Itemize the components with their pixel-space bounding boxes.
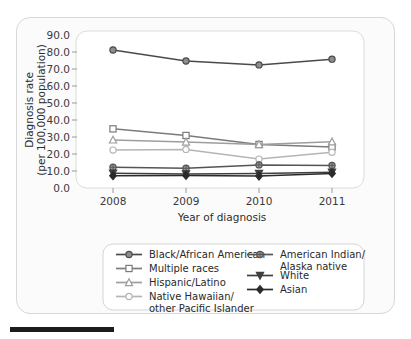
legend-item-label: Asian	[280, 284, 307, 295]
y-tick-10: 10.0	[47, 165, 70, 177]
x-tick-2009: 2009	[173, 195, 200, 207]
legend-item-label: American Indian/	[280, 249, 366, 260]
y-axis-tick-labels: 90.0 80.0 70.0 60.0 50.0 40.0 30.0 20.0 …	[47, 29, 70, 194]
y-tick-40: 40.0	[47, 114, 70, 126]
y-tick-50: 50.0	[47, 97, 70, 109]
x-tick-2011: 2011	[319, 195, 346, 207]
bottom-rule	[10, 327, 114, 332]
legend-item-label: Native Hawaiian/	[149, 291, 235, 302]
plot-panel	[76, 31, 364, 188]
y-axis-title-line2: (per 100,000 population)	[35, 44, 47, 176]
y-tick-70: 70.0	[47, 63, 70, 75]
y-axis-title: Diagnosis rate (per 100,000 population)	[23, 44, 47, 176]
x-tick-2008: 2008	[100, 195, 127, 207]
legend-item-label: Multiple races	[149, 263, 219, 274]
y-tick-60: 60.0	[47, 80, 70, 92]
y-tick-0: 0.0	[53, 182, 70, 194]
x-axis-tick-labels: 2008 2009 2010 2011	[100, 195, 346, 207]
legend-item-label-line2: other Pacific Islander	[149, 303, 255, 314]
y-tick-90: 90.0	[47, 29, 70, 41]
x-axis-title: Year of diagnosis	[177, 211, 267, 223]
y-axis-title-line1: Diagnosis rate	[23, 72, 35, 148]
legend-item-label: Hispanic/Latino	[149, 277, 226, 288]
y-tick-20: 20.0	[47, 148, 70, 160]
legend-item-label: White	[280, 270, 309, 281]
x-tick-2010: 2010	[246, 195, 273, 207]
y-tick-80: 80.0	[47, 46, 70, 58]
line-chart: 90.0 80.0 70.0 60.0 50.0 40.0 30.0 20.0 …	[0, 0, 411, 339]
y-tick-30: 30.0	[47, 131, 70, 143]
x-axis-ticks	[113, 188, 332, 193]
